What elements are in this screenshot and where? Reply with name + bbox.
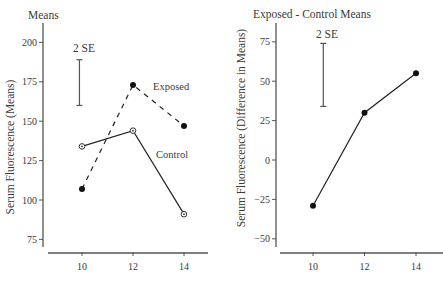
y-tick-label: 175 <box>22 76 37 87</box>
filled-circle-marker <box>130 82 136 88</box>
y-tick-label: 0 <box>265 155 270 166</box>
y-tick-label: −50 <box>254 233 270 244</box>
panel-title: Means <box>28 9 59 21</box>
series-line-control <box>82 131 184 215</box>
means-panel: Means Serum Fluorescence (Means) 2 SE Ex… <box>4 9 208 272</box>
series-line-exposed <box>82 85 184 189</box>
x-tick-label: 14 <box>411 261 421 272</box>
y-tick-label: 25 <box>260 115 270 126</box>
filled-circle-marker <box>79 186 85 192</box>
se-label: 2 SE <box>73 42 95 54</box>
y-axis-label: Serum Fluorescence (Means) <box>4 79 17 214</box>
x-tick-label: 12 <box>360 261 370 272</box>
figure: Means Serum Fluorescence (Means) 2 SE Ex… <box>0 0 443 286</box>
y-tick-label: −25 <box>254 194 270 205</box>
difference-panel: Exposed - Control Means Serum Fluorescen… <box>235 8 443 272</box>
se-label: 2 SE <box>316 28 338 40</box>
y-tick-label: 75 <box>260 36 270 47</box>
y-axis-label: Serum Fluorescence (Difference in Means) <box>235 29 248 228</box>
series-label-control: Control <box>156 149 188 160</box>
marker-center-dot <box>81 146 83 148</box>
panel-title: Exposed - Control Means <box>253 8 371 21</box>
filled-circle-marker <box>310 203 316 209</box>
y-tick-label: 100 <box>22 195 37 206</box>
marker-center-dot <box>132 130 134 132</box>
filled-circle-marker <box>362 110 368 116</box>
x-tick-label: 12 <box>128 261 138 272</box>
y-tick-label: 200 <box>22 37 37 48</box>
x-tick-label: 14 <box>179 261 189 272</box>
filled-circle-marker <box>181 123 187 129</box>
x-tick-label: 10 <box>77 261 87 272</box>
plot-area: −50−250255075101214 <box>254 23 443 272</box>
marker-center-dot <box>183 213 185 215</box>
x-tick-label: 10 <box>308 261 318 272</box>
filled-circle-marker <box>413 70 419 76</box>
series-label-exposed: Exposed <box>153 81 190 92</box>
y-tick-label: 50 <box>260 76 270 87</box>
y-tick-label: 150 <box>22 116 37 127</box>
y-tick-label: 125 <box>22 155 37 166</box>
plot-area: 75100125150175200101214 <box>22 23 208 272</box>
series-line-exposed-control <box>313 73 416 205</box>
y-tick-label: 75 <box>27 234 37 245</box>
